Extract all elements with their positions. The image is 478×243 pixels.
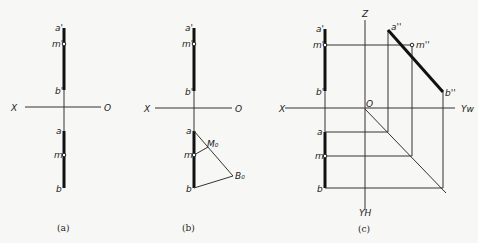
45-degree-construction-line <box>365 109 446 193</box>
label-yw-axis: Yw <box>461 104 474 114</box>
label-b-prime: b' <box>55 86 63 96</box>
label-b-dprime: b'' <box>445 88 456 98</box>
label-a-dprime: a'' <box>391 22 401 32</box>
label-b: b <box>317 184 323 194</box>
label-m-prime: m' <box>182 39 193 49</box>
label-x-axis: X <box>10 103 18 113</box>
label-x-axis: X <box>278 104 286 114</box>
panel-b: a' m' b' X O a m b M₀ B₀ (b) <box>143 23 245 233</box>
label-a: a <box>186 126 192 136</box>
label-x-axis: X <box>143 104 151 114</box>
label-b: b <box>186 184 192 194</box>
label-a-prime: a' <box>185 23 193 33</box>
label-a-prime: a' <box>316 24 324 34</box>
label-a: a <box>317 127 323 137</box>
label-yh-axis: YH <box>359 208 371 218</box>
label-origin: O <box>366 99 373 109</box>
label-m: m <box>184 150 193 160</box>
label-B0: B₀ <box>235 171 245 181</box>
panel-c: Z a' m' b' X O Yw a m b a'' m'' b'' YH (… <box>278 9 474 234</box>
caption-b: (b) <box>182 223 195 233</box>
point-m-dprime <box>410 43 414 47</box>
label-m: m <box>54 150 63 160</box>
label-m-prime: m' <box>52 39 63 49</box>
label-origin: O <box>235 104 242 114</box>
line-b-B0 <box>194 176 233 188</box>
label-b-prime: b' <box>316 87 324 97</box>
label-m-prime: m' <box>313 40 324 50</box>
label-m: m <box>315 151 324 161</box>
line-m-M0 <box>194 147 208 155</box>
line-a-B0 <box>194 131 233 176</box>
label-a: a <box>56 126 62 136</box>
panel-a: a' m' b' X O a m b (a) <box>10 23 111 233</box>
label-b: b <box>56 184 62 194</box>
label-a-prime: a' <box>55 23 63 33</box>
caption-a: (a) <box>57 223 69 233</box>
label-z-axis: Z <box>361 9 369 19</box>
orthographic-projection-figure: a' m' b' X O a m b (a) a' m' b' X O a m … <box>0 0 478 243</box>
label-b-prime: b' <box>185 87 193 97</box>
label-origin: O <box>104 103 111 113</box>
label-m-dprime: m'' <box>416 40 430 50</box>
label-M0: M₀ <box>207 139 219 149</box>
caption-c: (c) <box>358 224 370 234</box>
